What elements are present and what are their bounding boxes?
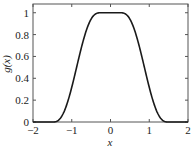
x-tick-label: 2 bbox=[185, 124, 191, 136]
series-line bbox=[33, 13, 188, 122]
x-tick-label: 1 bbox=[147, 124, 153, 136]
x-axis-label: x bbox=[107, 136, 113, 148]
y-tick-label: 0.4 bbox=[15, 72, 29, 84]
y-tick-label: 0.8 bbox=[15, 29, 29, 41]
y-tick-label: 1 bbox=[24, 7, 30, 19]
plot-frame bbox=[33, 4, 188, 122]
axis-ticks bbox=[33, 4, 188, 122]
y-tick-label: 0.6 bbox=[15, 50, 29, 62]
data-series bbox=[33, 13, 188, 122]
y-tick-label: 0 bbox=[24, 116, 30, 128]
line-chart: −2−101200.20.40.60.81 x g(x) bbox=[0, 0, 193, 151]
tick-labels: −2−101200.20.40.60.81 bbox=[15, 7, 191, 136]
x-tick-label: 0 bbox=[108, 124, 114, 136]
y-axis-label: g(x) bbox=[0, 55, 13, 73]
x-tick-label: −1 bbox=[66, 124, 78, 136]
plot-border bbox=[33, 4, 188, 122]
y-tick-label: 0.2 bbox=[15, 94, 29, 106]
